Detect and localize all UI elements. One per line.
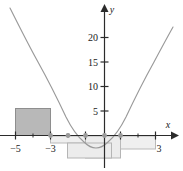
- sample-point-1: [118, 133, 123, 138]
- rect-below-axis-outer-right: [121, 136, 156, 149]
- x-tick-label--5: −5: [10, 143, 21, 154]
- sample-point--1: [83, 133, 88, 138]
- riemann-sum-figure: −5 −3 3 20 15 10 5 x y: [0, 0, 183, 171]
- y-axis-name-label: y: [109, 4, 115, 15]
- x-axis-name-label: x: [165, 119, 171, 130]
- y-tick-label-10: 10: [88, 81, 98, 92]
- y-tick-label-20: 20: [88, 32, 98, 43]
- axis-name-labels: x y: [109, 4, 171, 130]
- y-tick-label-5: 5: [93, 106, 98, 117]
- sample-point--3: [48, 133, 53, 138]
- x-tick-label-3: 3: [157, 143, 162, 154]
- plot-canvas: −5 −3 3 20 15 10 5 x y: [0, 0, 183, 171]
- rect-above-axis-left: [16, 109, 51, 136]
- y-tick-label-15: 15: [88, 57, 98, 68]
- sample-point--2: [66, 133, 71, 138]
- x-tick-label--3: −3: [45, 143, 56, 154]
- y-axis-arrowhead: [101, 4, 109, 12]
- sample-point-0: [102, 133, 107, 138]
- x-axis-arrowhead: [171, 132, 179, 140]
- y-axis-tick-labels: 20 15 10 5: [88, 32, 98, 117]
